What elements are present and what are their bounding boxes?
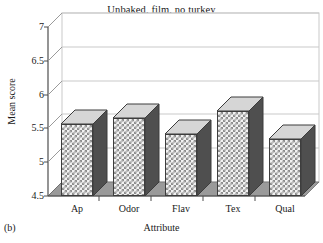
bar-tex (217, 111, 249, 196)
bar-front-face (61, 124, 93, 196)
bar-front-face (269, 139, 301, 196)
bar-front-face (113, 118, 145, 196)
panel-label: (b) (4, 222, 16, 233)
bar-front-face (165, 134, 197, 196)
bar-ap (61, 124, 93, 196)
x-tick-label-flav: Flav (151, 203, 211, 214)
bar-front-face (217, 111, 249, 196)
y-tick-label: 4.5 (4, 191, 44, 201)
x-axis-title: Attribute (0, 222, 323, 233)
bar-flav (165, 134, 197, 196)
y-axis-title: Mean score (6, 64, 17, 140)
bar-chart: Unbaked, film, no turkey (0, 0, 323, 243)
chart-title: Unbaked, film, no turkey (0, 4, 323, 15)
y-tick-label: 7 (4, 22, 44, 32)
x-tick-label-qual: Qual (255, 203, 315, 214)
bar-odor (113, 118, 145, 196)
x-tick-label-ap: Ap (47, 203, 107, 214)
x-tick-label-odor: Odor (99, 203, 159, 214)
x-tick-label-tex: Tex (203, 203, 263, 214)
y-tick-label: 5 (4, 157, 44, 167)
bar-qual (269, 139, 301, 196)
